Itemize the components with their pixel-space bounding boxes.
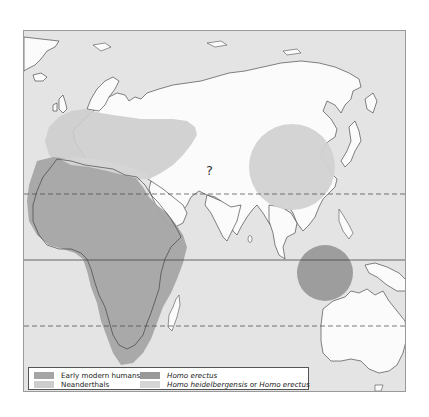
heidelbergensis-east-asia [249,124,335,210]
world-map [24,31,406,392]
swatch-neanderthals [34,381,54,388]
legend-label: Homo erectus [167,371,217,380]
legend-label-part2: Homo erectus [259,380,309,389]
sri-lanka [248,236,252,243]
question-mark-annotation: ? [206,163,213,178]
swatch-homo-heidelbergensis [140,381,160,388]
legend: Early modern humans Neanderthals Homo er… [28,367,309,390]
legend-label: Early modern humans [61,371,140,380]
swatch-homo-erectus [140,372,160,379]
swatch-early-modern-humans [34,372,54,379]
legend-label-part1: Homo heidelbergensis [167,380,247,389]
legend-label: Neanderthals [61,380,109,389]
legend-label-connector: or [247,380,259,389]
homo-erectus-java [297,245,353,301]
map-frame: ? [23,30,406,392]
legend-label-compound: Homo heidelbergensis or Homo erectus [167,380,310,389]
